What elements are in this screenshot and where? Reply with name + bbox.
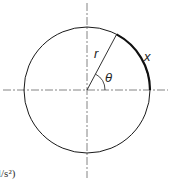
circle-diagram bbox=[0, 0, 171, 180]
arc-length-label: x bbox=[144, 50, 151, 63]
angle-label: θ bbox=[105, 71, 112, 84]
radius-line bbox=[87, 34, 117, 90]
radius-label: r bbox=[94, 47, 98, 60]
caption-fragment: l/s²) bbox=[0, 168, 15, 179]
angle-arc bbox=[96, 74, 106, 90]
